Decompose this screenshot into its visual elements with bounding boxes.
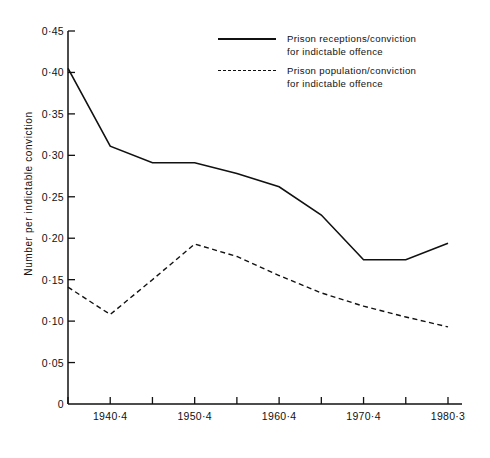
legend-label-population-line1: Prison population/conviction [287, 65, 416, 78]
legend-label-population: Prison population/conviction for indicta… [287, 65, 416, 90]
y-axis-tick-label: 0·05 [24, 357, 64, 369]
series-line-receptions [68, 68, 448, 259]
x-axis-tick-label: 1950·4 [177, 410, 212, 422]
data-series-group [68, 68, 448, 327]
y-axis-tick-label: 0·40 [24, 66, 64, 78]
y-axis-tick-label: 0·10 [24, 315, 64, 327]
y-axis-tick-label: 0 [24, 398, 64, 410]
x-axis-tick-label: 1970·4 [346, 410, 381, 422]
x-axis-tick-label: 1960·4 [262, 410, 297, 422]
x-axis-tick-label: 1980·3 [431, 410, 466, 422]
chart-figure: 00·050·100·150·200·250·300·350·400·45 19… [0, 0, 490, 458]
y-axis-tick-label: 0·45 [24, 25, 64, 37]
legend-label-receptions-line1: Prison receptions/conviction [287, 33, 416, 46]
legend-label-population-line2: for indictable offence [287, 78, 416, 91]
legend-entry-receptions: Prison receptions/conviction for indicta… [218, 33, 416, 58]
legend-entry-population: Prison population/conviction for indicta… [218, 65, 416, 90]
solid-line-sample [218, 33, 278, 45]
x-axis-ticks [68, 397, 448, 404]
y-axis-title: Number per indictable conviction [23, 94, 34, 294]
x-axis-tick-label: 1940·4 [93, 410, 128, 422]
series-line-population [68, 244, 448, 327]
dashed-line-sample [218, 65, 278, 77]
chart-legend: Prison receptions/conviction for indicta… [218, 33, 416, 97]
legend-label-receptions-line2: for indictable offence [287, 46, 416, 59]
legend-label-receptions: Prison receptions/conviction for indicta… [287, 33, 416, 58]
